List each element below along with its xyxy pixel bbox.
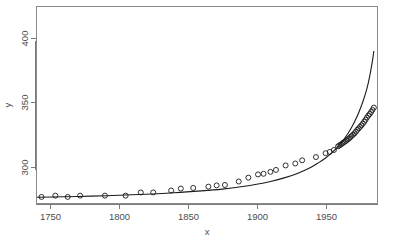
x-tick-label-1950: 1950 (316, 211, 337, 222)
y-tick-label-300: 300 (19, 160, 30, 176)
x-tick-label-1800: 1800 (109, 211, 130, 222)
x-tick-label-1900: 1900 (247, 211, 268, 222)
x-tick-label-1850: 1850 (178, 211, 199, 222)
y-axis-label: y (2, 102, 13, 107)
x-tick-label-1750: 1750 (40, 211, 61, 222)
y-tick-label-400: 400 (19, 31, 30, 47)
chart-canvas: 17501800185019001950 300350400 x y (0, 0, 394, 243)
x-axis-label: x (205, 226, 210, 237)
figure-background (0, 0, 394, 243)
y-tick-label-350: 350 (19, 95, 30, 111)
plot-figure: 17501800185019001950 300350400 x y (0, 0, 394, 243)
